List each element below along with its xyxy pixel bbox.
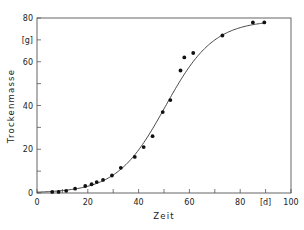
data-point [221, 34, 225, 38]
data-point [95, 180, 99, 184]
tick-labels: 020406080[d]1000204060[g]80 [22, 14, 299, 207]
data-point [142, 145, 146, 149]
data-point [151, 134, 155, 138]
data-point [133, 155, 137, 159]
data-point [161, 110, 165, 114]
x-axis-title: Zeit [153, 211, 175, 221]
x-tick-label: 80 [235, 198, 245, 207]
x-tick-label: 60 [184, 198, 194, 207]
data-point [110, 174, 114, 178]
plot-frame [37, 18, 291, 193]
y-tick-label: 60 [23, 58, 33, 67]
growth-chart: 020406080[d]1000204060[g]80 Zeit Trocken… [0, 0, 304, 230]
x-tick-label: 100 [283, 198, 298, 207]
x-tick-label: 40 [134, 198, 144, 207]
y-tick-label: 0 [28, 189, 33, 198]
data-point [119, 166, 123, 170]
data-point [90, 182, 94, 186]
plot-axes [37, 18, 291, 193]
data-point [182, 55, 186, 59]
data-point [168, 98, 172, 102]
data-point [64, 189, 68, 193]
data-point [191, 51, 195, 55]
data-point [251, 20, 255, 24]
data-point [101, 178, 105, 182]
y-tick-label: 40 [23, 102, 33, 111]
y-axis-title: Trockenmasse [6, 69, 16, 144]
x-tick-label: 0 [34, 198, 39, 207]
fitted-curve [37, 23, 266, 192]
x-tick-label: [d] [260, 198, 271, 207]
x-tick-label: 20 [83, 198, 93, 207]
data-point [57, 190, 61, 194]
data-points [50, 20, 266, 193]
logistic-curve [37, 23, 266, 192]
data-point [73, 187, 77, 191]
data-point [179, 69, 183, 73]
data-point [50, 190, 54, 194]
y-tick-label: 80 [23, 14, 33, 23]
data-point [83, 184, 87, 188]
data-point [262, 20, 266, 24]
y-tick-label: [g] [22, 36, 33, 45]
y-tick-label: 20 [23, 145, 33, 154]
